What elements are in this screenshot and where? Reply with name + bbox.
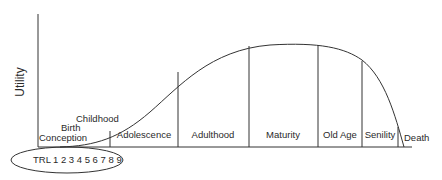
y-axis-label: Utility — [13, 67, 27, 96]
stage-label-old-age: Old Age — [323, 129, 357, 140]
stage-label-death: Death — [404, 132, 429, 143]
technology-lifecycle-diagram: Utility Conception Birth Childhood Adole… — [0, 0, 442, 180]
stage-label-adulthood: Adulthood — [192, 129, 235, 140]
trl-levels: 1 2 3 4 5 6 7 8 9 — [53, 154, 122, 165]
stage-label-adolescence: Adolescence — [117, 129, 171, 140]
stage-label-conception: Conception — [39, 132, 87, 143]
stage-label-maturity: Maturity — [266, 129, 300, 140]
stage-label-childhood: Childhood — [76, 113, 119, 124]
trl-prefix: TRL — [33, 154, 51, 165]
stage-label-senility: Senility — [365, 129, 396, 140]
